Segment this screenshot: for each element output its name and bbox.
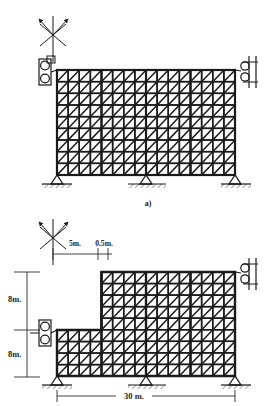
arrow-icon <box>39 19 53 35</box>
dimension-left-vertical <box>14 272 40 377</box>
dimension-top-horizontal <box>53 248 112 260</box>
arrow-icon <box>53 19 68 35</box>
base-supports-a <box>42 175 251 188</box>
panel-b-group: 5m. 0.5m. 8m. 8m. <box>8 219 258 402</box>
truss-mesh-b-lower <box>57 330 102 376</box>
truss-mesh-a <box>57 70 235 175</box>
left-roller-support <box>30 320 57 346</box>
dimension-label-5m: 5m. <box>69 239 81 248</box>
caption-figure-a: a) <box>145 199 152 208</box>
dimension-label-0-5m: 0.5m. <box>95 239 113 248</box>
right-roller-support <box>235 56 258 88</box>
panel-a-group <box>39 16 258 188</box>
dimension-label-30m: 30 m. <box>124 391 144 401</box>
figure-canvas: a) 5m. 0.5m. 8m. 8m. <box>0 0 265 406</box>
dimension-label-8m-upper: 8m. <box>8 294 21 304</box>
dimension-label-8m-lower: 8m. <box>8 349 21 359</box>
arrow-icon <box>39 222 53 238</box>
arrow-icon <box>53 222 68 238</box>
truss-mesh-b-upper <box>102 272 236 376</box>
anchor-icon <box>39 219 68 265</box>
anchor-icon <box>39 16 68 63</box>
structural-diagram: a) 5m. 0.5m. 8m. 8m. <box>0 0 265 406</box>
base-supports-b <box>42 376 251 389</box>
right-roller-support <box>235 258 258 290</box>
dimension-bottom-horizontal <box>57 390 235 402</box>
